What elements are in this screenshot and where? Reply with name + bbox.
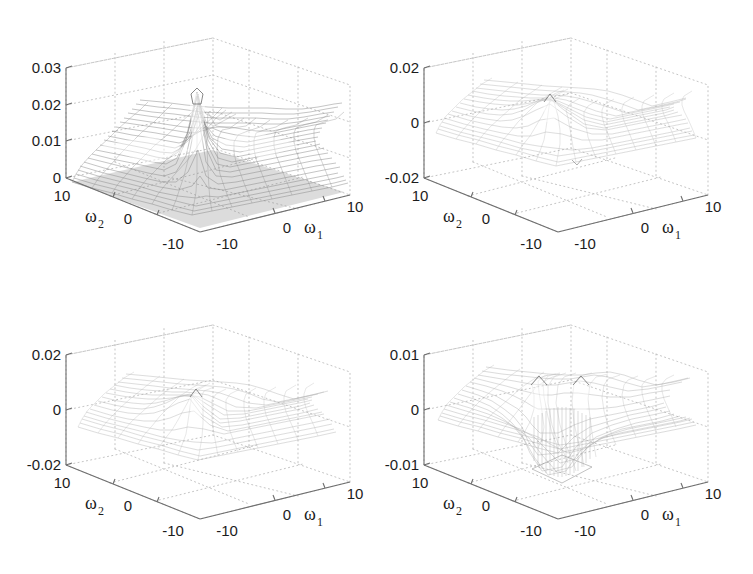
ztick-label: 0.02 [32, 96, 61, 113]
xtick-label: 10 [705, 485, 722, 502]
axis-label-omega2: ω 2 [443, 493, 462, 518]
ytick-label: 10 [412, 187, 429, 204]
xtick-label: -10 [216, 235, 238, 252]
plot-bottom-right: 0.01 0 -0.01 10 0 -10 -10 0 10 ω 2 ω 1 [376, 287, 753, 574]
omega2-glyph: ω [85, 206, 97, 226]
ztick-label: 0 [411, 401, 419, 418]
mesh-surface-top-right [436, 78, 696, 166]
axis-label-omega1: ω 1 [662, 504, 681, 529]
ztick-label: 0 [53, 401, 61, 418]
ytick-label: 0 [482, 497, 490, 514]
omega1-subscript: 1 [675, 228, 681, 242]
ytick-label: 0 [124, 210, 132, 227]
xtick-label: -10 [574, 522, 596, 539]
ztick-label: 0.02 [32, 346, 61, 363]
ytick-label: 0 [124, 497, 132, 514]
ztick-label: 0.01 [390, 346, 419, 363]
plot-top-right: 0.02 0 -0.02 10 0 -10 -10 0 10 ω 2 ω 1 [376, 0, 753, 287]
omega1-subscript: 1 [317, 515, 323, 529]
ytick-label: 10 [54, 187, 71, 204]
omega2-subscript: 2 [98, 217, 104, 231]
grid-lines-bottom-left [66, 325, 350, 519]
xtick-label: 10 [705, 198, 722, 215]
plot-bottom-left: 0.02 0 -0.02 10 0 -10 -10 0 10 ω 2 ω 1 [0, 287, 376, 574]
plot-top-left: 0.03 0.02 0.01 0 10 0 -10 -10 0 10 ω 2 ω… [0, 0, 376, 287]
chart-panel-top-right: 0.02 0 -0.02 10 0 -10 -10 0 10 ω 2 ω 1 [376, 0, 753, 287]
mesh-surface-bottom-left [78, 372, 336, 460]
xtick-label: -10 [216, 522, 238, 539]
xtick-label: 10 [347, 485, 364, 502]
ytick-label: -10 [520, 235, 542, 252]
axis-label-omega2: ω 2 [85, 206, 104, 231]
axis-label-omega2: ω 2 [443, 206, 462, 231]
xtick-label: 0 [283, 219, 291, 236]
ztick-label: 0.03 [32, 59, 61, 76]
xtick-label: -10 [574, 235, 596, 252]
ztick-label: 0.01 [32, 132, 61, 149]
mesh-surface-bottom-right [438, 365, 696, 483]
omega1-glyph: ω [662, 217, 674, 237]
omega1-glyph: ω [304, 504, 316, 524]
omega2-subscript: 2 [456, 504, 462, 518]
chart-panel-bottom-right: 0.01 0 -0.01 10 0 -10 -10 0 10 ω 2 ω 1 [376, 287, 753, 574]
omega2-glyph: ω [443, 493, 455, 513]
figure-grid: 0.03 0.02 0.01 0 10 0 -10 -10 0 10 ω 2 ω… [0, 0, 753, 574]
axis-label-omega1: ω 1 [662, 217, 681, 242]
omega2-subscript: 2 [456, 217, 462, 231]
ztick-label: 0 [411, 114, 419, 131]
ytick-label: -10 [162, 522, 184, 539]
chart-panel-top-left: 0.03 0.02 0.01 0 10 0 -10 -10 0 10 ω 2 ω… [0, 0, 376, 287]
omega1-glyph: ω [304, 217, 316, 237]
xtick-label: 10 [347, 198, 364, 215]
axis-spines-top-right [424, 68, 708, 232]
omega1-subscript: 1 [675, 515, 681, 529]
ytick-label: 0 [482, 210, 490, 227]
ztick-label: 0.02 [390, 59, 419, 76]
ztick-label: -0.02 [385, 169, 419, 186]
axis-spines-bottom-left [66, 355, 350, 519]
omega1-subscript: 1 [317, 228, 323, 242]
omega2-glyph: ω [85, 493, 97, 513]
xtick-label: 0 [641, 219, 649, 236]
ytick-label: -10 [520, 522, 542, 539]
axis-label-omega1: ω 1 [304, 504, 323, 529]
axis-label-omega1: ω 1 [304, 217, 323, 242]
ytick-label: 10 [412, 474, 429, 491]
omega2-glyph: ω [443, 206, 455, 226]
axis-tickmarks-bottom-left [66, 353, 325, 502]
ytick-label: -10 [162, 235, 184, 252]
xtick-label: 0 [641, 506, 649, 523]
mesh-surface-top-left [72, 88, 348, 228]
chart-panel-bottom-left: 0.02 0 -0.02 10 0 -10 -10 0 10 ω 2 ω 1 [0, 287, 376, 574]
ztick-label: -0.01 [385, 456, 419, 473]
xtick-label: 0 [283, 506, 291, 523]
ytick-label: 10 [54, 474, 71, 491]
axis-label-omega2: ω 2 [85, 493, 104, 518]
axis-tickmarks-bottom-right [424, 353, 683, 502]
omega2-subscript: 2 [98, 504, 104, 518]
ztick-label: -0.02 [27, 456, 61, 473]
ztick-label: 0 [53, 169, 61, 186]
omega1-glyph: ω [662, 504, 674, 524]
